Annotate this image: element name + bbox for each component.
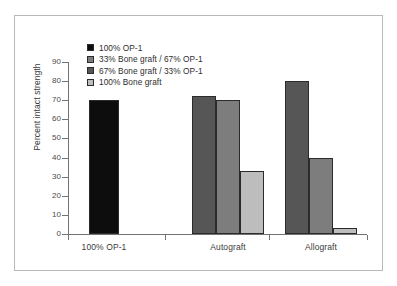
legend-swatch-icon xyxy=(87,56,94,63)
chart-bar xyxy=(192,96,216,234)
legend-item-label: 100% Bone graft xyxy=(99,77,162,87)
legend-item-label: 100% OP-1 xyxy=(99,43,142,53)
chart-figure-frame: Percent intact strength 9080706050403020… xyxy=(14,15,383,271)
legend-item: 67% Bone graft / 33% OP-1 xyxy=(87,65,277,77)
legend-item: 100% OP-1 xyxy=(87,42,277,54)
legend-swatch-icon xyxy=(87,67,94,74)
legend-item-label: 67% Bone graft / 33% OP-1 xyxy=(99,66,203,76)
legend-item: 100% Bone graft xyxy=(87,77,277,89)
chart-bar xyxy=(285,81,309,234)
chart-bar xyxy=(309,158,333,234)
legend-swatch-icon xyxy=(87,44,94,51)
chart-bar xyxy=(89,100,119,234)
legend-item-label: 33% Bone graft / 67% OP-1 xyxy=(99,54,203,64)
chart-legend: 100% OP-133% Bone graft / 67% OP-167% Bo… xyxy=(87,42,277,88)
chart-plot-area: Percent intact strength 9080706050403020… xyxy=(15,16,384,272)
chart-bar xyxy=(216,100,240,234)
legend-item: 33% Bone graft / 67% OP-1 xyxy=(87,54,277,66)
legend-swatch-icon xyxy=(87,79,94,86)
chart-bar xyxy=(240,171,264,234)
chart-bar xyxy=(333,228,357,234)
